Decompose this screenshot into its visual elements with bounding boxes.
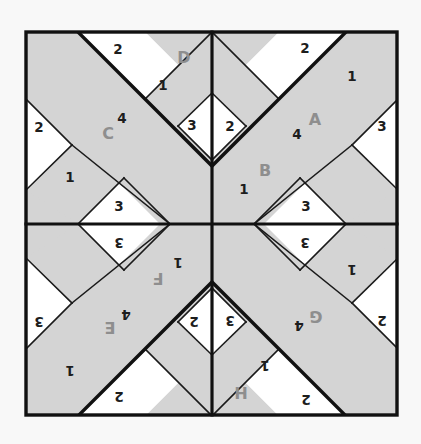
unit-label-a: A xyxy=(309,110,322,129)
piece-number-2: 2 xyxy=(113,41,122,57)
piece-number-3: 3 xyxy=(301,198,310,214)
quilt-block-figure: 2D124C313212A43B1331F34E212313G421H2 xyxy=(0,0,421,444)
piece-number-3: 3 xyxy=(300,235,309,251)
piece-number-1: 1 xyxy=(65,169,74,185)
quadrant-bottom-left xyxy=(26,224,212,416)
piece-number-2: 2 xyxy=(114,389,123,405)
unit-label-e: E xyxy=(105,318,116,337)
unit-label-d: D xyxy=(177,48,190,67)
piece-number-2: 2 xyxy=(189,314,198,330)
piece-number-1: 1 xyxy=(65,363,74,379)
piece-number-3: 3 xyxy=(377,118,386,134)
piece-number-3: 3 xyxy=(225,313,234,329)
piece-number-1: 1 xyxy=(260,358,269,374)
unit-label-g: G xyxy=(309,307,322,326)
unit-label-h: H xyxy=(234,383,247,402)
piece-number-2: 2 xyxy=(301,392,310,408)
piece-number-3: 3 xyxy=(34,314,43,330)
piece-number-2: 2 xyxy=(377,313,386,329)
piece-number-4: 4 xyxy=(292,126,301,142)
quilt-block-canvas: 2D124C313212A43B1331F34E212313G421H2 xyxy=(0,0,421,444)
piece-number-1: 1 xyxy=(347,262,356,278)
piece-number-4: 4 xyxy=(117,110,126,126)
piece-number-1: 1 xyxy=(173,255,182,271)
piece-number-1: 1 xyxy=(347,68,356,84)
piece-number-2: 2 xyxy=(300,40,309,56)
piece-number-1: 1 xyxy=(239,181,248,197)
piece-number-2: 2 xyxy=(34,119,43,135)
piece-number-3: 3 xyxy=(187,117,196,133)
piece-number-4: 4 xyxy=(294,318,303,334)
piece-number-1: 1 xyxy=(158,77,167,93)
unit-label-c: C xyxy=(102,124,114,143)
unit-label-f: F xyxy=(153,269,164,288)
piece-number-3: 3 xyxy=(114,235,123,251)
piece-number-4: 4 xyxy=(121,307,130,323)
piece-number-3: 3 xyxy=(114,198,123,214)
unit-label-b: B xyxy=(259,161,271,180)
piece-number-2: 2 xyxy=(225,118,234,134)
